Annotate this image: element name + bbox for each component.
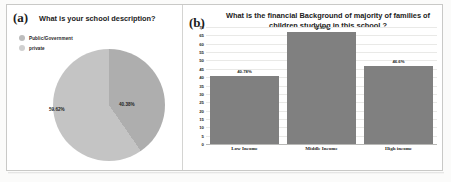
y-axis-tick-label: 5 <box>202 133 204 138</box>
pie-slices <box>53 49 165 161</box>
bar-value-label: 66.80% <box>314 25 329 30</box>
panel-a-title: What is your school description? <box>39 14 175 24</box>
bar-value-label: 46.6% <box>392 59 404 64</box>
pie-slice-label-private: 40.38% <box>119 102 135 107</box>
y-axis-tick-label: 35 <box>199 83 204 88</box>
figure-shadow <box>8 172 444 174</box>
legend-swatch-icon <box>19 35 25 41</box>
legend-item-public-government: Public/Government <box>19 35 73 41</box>
y-axis-tick-label: 40 <box>199 75 204 80</box>
panel-b: (b) What is the financial Background of … <box>182 5 444 170</box>
y-axis-tick-label: 55 <box>199 50 204 55</box>
legend-swatch-icon <box>19 45 25 51</box>
y-axis-tick-label: 0 <box>202 142 204 147</box>
panel-a-tag: (a) <box>13 10 28 26</box>
bar-slot: 40.78% <box>210 27 279 144</box>
y-axis-tick-label: 30 <box>199 91 204 96</box>
y-axis-ticks: 7065605550454035302520151050 <box>192 27 205 144</box>
x-axis-labels: Low IncomeMiddle IncomeHigh income <box>206 146 437 151</box>
bar-slot: 66.80% <box>287 27 356 144</box>
pie-chart: 59.62% 40.38% <box>53 49 165 161</box>
bar <box>287 32 356 144</box>
y-axis-tick-label: 20 <box>199 108 204 113</box>
figure-frame: (a) What is your school description? Pub… <box>6 4 443 171</box>
y-axis-tick-label: 15 <box>199 116 204 121</box>
x-axis-category-label: Low Income <box>206 146 282 151</box>
bar <box>210 76 279 144</box>
y-axis-tick-label: 45 <box>199 66 204 71</box>
y-axis-tick-label: 25 <box>199 100 204 105</box>
y-axis-tick-label: 60 <box>199 41 204 46</box>
y-axis-tick-label: 65 <box>199 33 204 38</box>
figure-container: (a) What is your school description? Pub… <box>0 0 451 182</box>
bar-slot: 46.6% <box>364 27 433 144</box>
plot-area: 40.78%66.80%46.6% <box>206 27 437 145</box>
legend-label: private <box>29 46 45 51</box>
x-axis-category-label: High income <box>360 146 436 151</box>
y-axis-tick-label: 50 <box>199 58 204 63</box>
panel-a: (a) What is your school description? Pub… <box>7 5 182 170</box>
bar-value-label: 40.78% <box>237 69 252 74</box>
y-axis-tick-label: 10 <box>199 125 204 130</box>
bar-series: 40.78%66.80%46.6% <box>206 27 437 144</box>
pie-slice-label-public-government: 59.62% <box>49 107 65 112</box>
bar-chart: 7065605550454035302520151050 40.78%66.80… <box>192 27 437 155</box>
bar <box>364 66 433 144</box>
y-axis-tick-label: 70 <box>199 25 204 30</box>
legend-label: Public/Government <box>29 36 73 41</box>
x-axis-category-label: Middle Income <box>283 146 359 151</box>
